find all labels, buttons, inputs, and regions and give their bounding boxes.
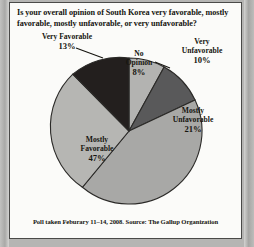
pie-label-mostly-unfavorable: Mostly Unfavorable 21% bbox=[158, 106, 228, 134]
pie-label-mostly-favorable: Mostly Favorable 47% bbox=[62, 135, 132, 163]
pie-label-very-favorable-text: Very Favorable bbox=[42, 32, 92, 41]
pie-label-very-unfavorable-text: Very bbox=[194, 37, 209, 46]
source-note: Poll taken Feburary 11–14, 2008. Source:… bbox=[10, 218, 241, 225]
page-gutter-left bbox=[0, 0, 9, 247]
pie-label-no-opinion-value: 8% bbox=[117, 67, 161, 77]
pie-label-very-favorable-value: 13% bbox=[30, 41, 104, 51]
pie-label-no-opinion: No Opinion 8% bbox=[117, 49, 161, 77]
page-title: Is your overall opinion of South Korea v… bbox=[17, 7, 238, 29]
pie-label-no-opinion-text: No bbox=[134, 49, 143, 58]
pie-chart: Very Favorable 13% No Opinion 8% Very Un… bbox=[10, 31, 241, 209]
pie-label-very-unfavorable-text2: Unfavorable bbox=[182, 46, 223, 55]
pie-label-mostly-favorable-text: Mostly bbox=[86, 135, 108, 144]
page-gutter-right bbox=[244, 0, 254, 247]
pie-label-mostly-unfavorable-text: Mostly bbox=[182, 106, 204, 115]
pie-label-mostly-favorable-text2: Favorable bbox=[81, 144, 114, 153]
pie-label-mostly-unfavorable-text2: Unfavorable bbox=[173, 115, 214, 124]
chart-card: Is your overall opinion of South Korea v… bbox=[9, 2, 242, 239]
pie-label-very-favorable: Very Favorable 13% bbox=[30, 32, 104, 51]
scanned-page: Is your overall opinion of South Korea v… bbox=[0, 0, 254, 247]
pie-label-no-opinion-text2: Opinion bbox=[126, 58, 153, 67]
pie-label-very-unfavorable: Very Unfavorable 10% bbox=[170, 37, 234, 65]
pie-label-mostly-unfavorable-value: 21% bbox=[158, 124, 228, 134]
pie-label-mostly-favorable-value: 47% bbox=[62, 153, 132, 163]
pie-label-very-unfavorable-value: 10% bbox=[170, 55, 234, 65]
